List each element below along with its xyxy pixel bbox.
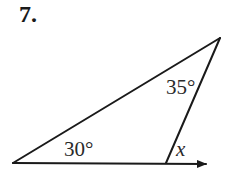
triangle bbox=[13, 38, 220, 164]
triangle-diagram: 35° 30° x bbox=[0, 0, 238, 188]
side-top-to-right bbox=[166, 38, 220, 163]
angle-label-top: 35° bbox=[166, 75, 195, 99]
base-extended-ray bbox=[13, 163, 206, 164]
side-left-to-top bbox=[13, 38, 220, 163]
angle-label-exterior: x bbox=[175, 137, 186, 161]
angle-label-left: 30° bbox=[64, 137, 93, 161]
